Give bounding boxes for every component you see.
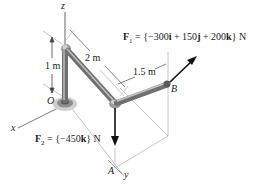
origin-label: O	[47, 96, 54, 106]
dim-15m-label: 1.5 m	[133, 67, 156, 77]
force-f2-arrow	[111, 108, 119, 146]
dim-2m-ext-a	[66, 30, 74, 40]
point-a-label: A	[108, 166, 114, 176]
f1-suffix: } N	[232, 31, 247, 42]
f1-mid1: + 150	[171, 31, 197, 42]
dim-2m-label: 2 m	[85, 53, 100, 63]
y-axis-label: y	[124, 170, 128, 180]
dim-1m-label: 1 m	[45, 61, 60, 71]
a-to-b-base-line	[115, 136, 168, 168]
force-f2-label: F2 = {−450k} N	[35, 134, 101, 147]
f1-mid2: + 200	[200, 31, 226, 42]
dim-2m-line-b	[105, 66, 125, 87]
dim-2m-line-a	[70, 30, 90, 51]
dim-15m-line-a	[118, 77, 135, 84]
dim-15m-line-b	[155, 64, 166, 69]
pipe-end-b	[164, 81, 171, 88]
point-b-label: B	[171, 84, 177, 94]
force-f1-label: F1 = {−300i + 150j + 200k} N	[123, 32, 246, 45]
f2-suffix: } N	[86, 133, 101, 144]
x-axis-line	[18, 106, 62, 128]
pipe-assembly-diagram	[0, 0, 272, 185]
z-axis-label: z	[61, 1, 65, 11]
f1-prefix: = {−300	[133, 31, 169, 42]
f2-prefix: = {−450	[45, 133, 81, 144]
force-f1-arrow	[170, 56, 197, 82]
x-axis-label: x	[11, 123, 15, 133]
